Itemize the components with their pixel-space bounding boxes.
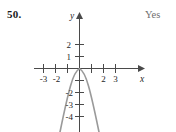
x-tick-label-neg2: -2 xyxy=(53,74,61,84)
graph-svg: -3 -2 2 3 2 1 -2 -3 -4 y x xyxy=(26,4,152,132)
y-tick-label-2: 2 xyxy=(67,40,72,50)
y-tick-label-neg2: -2 xyxy=(66,88,74,98)
y-tick-label-1: 1 xyxy=(67,52,72,62)
figure-page: 50. Yes xyxy=(0,0,176,132)
problem-number: 50. xyxy=(7,8,21,20)
y-tick-label-neg3: -3 xyxy=(66,100,74,110)
x-tick-label-2: 2 xyxy=(101,74,106,84)
x-axis-label: x xyxy=(139,74,145,84)
coordinate-graph: -3 -2 2 3 2 1 -2 -3 -4 y x xyxy=(26,4,152,132)
y-axis-arrow-icon xyxy=(76,12,83,19)
x-axis-arrow-icon xyxy=(138,65,145,72)
x-tick-label-neg3: -3 xyxy=(40,74,48,84)
y-axis-label: y xyxy=(69,11,75,21)
x-tick-label-3: 3 xyxy=(113,74,118,84)
y-tick-label-neg4: -4 xyxy=(66,112,74,122)
